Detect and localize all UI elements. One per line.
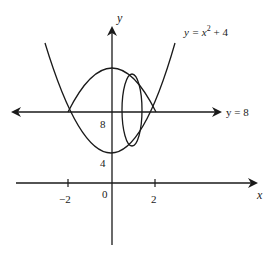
y-axis-label: y: [116, 11, 123, 25]
x-tick-label-2: 2: [151, 193, 157, 205]
line-y8-label: y = 8: [226, 106, 249, 118]
x-axis-label: x: [256, 188, 263, 202]
x-tick-label-neg2: −2: [59, 193, 71, 205]
y-tick-label-8: 8: [100, 118, 106, 130]
y-tick-label-4: 4: [100, 157, 106, 169]
cross-section-ellipse: [122, 74, 142, 146]
parabola-curve: [45, 43, 175, 153]
parabola-label: y = x2 + 4: [183, 24, 228, 38]
origin-label: 0: [102, 188, 108, 200]
diagram-canvas: y x y = x2 + 4 y = 8 8 4 0 −2 2: [0, 0, 277, 260]
